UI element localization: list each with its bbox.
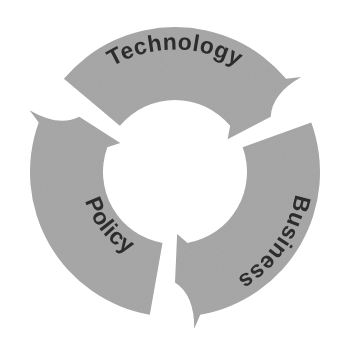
cycle-diagram: TechnologyBusinessPolicy	[0, 0, 345, 338]
cycle-diagram-canvas: TechnologyBusinessPolicy	[0, 0, 345, 338]
